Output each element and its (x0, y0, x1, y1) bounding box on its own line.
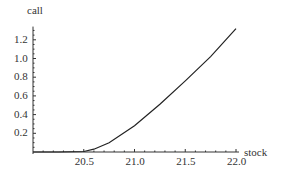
chart (0, 0, 285, 176)
x-tick-label: 20.5 (75, 155, 94, 167)
call-series-line (33, 29, 236, 152)
y-tick-label: 0.8 (14, 70, 28, 82)
y-tick-label: 0.4 (14, 108, 28, 120)
y-tick-label: 0.2 (14, 126, 28, 138)
y-tick-label: 1.2 (14, 33, 28, 45)
x-axis-label: stock (244, 146, 267, 158)
axes (33, 27, 239, 154)
x-tick-label: 21.5 (176, 155, 195, 167)
y-tick-label: 0.6 (14, 89, 28, 101)
y-axis-label: call (27, 4, 43, 16)
y-tick-label: 1.0 (14, 52, 28, 64)
x-tick-label: 21.0 (126, 155, 145, 167)
